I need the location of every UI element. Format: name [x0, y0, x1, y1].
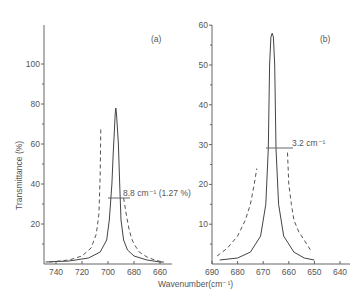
panel-a-label: (a) — [151, 34, 162, 44]
y-tick-label: 40 — [199, 100, 209, 110]
x-tick-label: 680 — [127, 267, 141, 277]
y-axis-label: Transmittance (%) — [14, 141, 24, 210]
panel-b-annotation: 3.2 cm⁻¹ — [292, 138, 326, 148]
x-tick-label: 690 — [205, 267, 219, 277]
x-axis-label: Wavenumber(cm⁻¹) — [158, 279, 233, 289]
x-tick-label: 660 — [153, 267, 167, 277]
x-tick-label: 700 — [101, 267, 115, 277]
x-tick-label: 670 — [256, 267, 270, 277]
panel-a-annotation: 8.8 cm⁻¹ (1.27 %) — [123, 188, 191, 198]
y-tick-label: 100 — [26, 59, 40, 69]
series-dashed — [50, 128, 101, 262]
y-tick-label: 60 — [31, 139, 41, 149]
panel-a-series — [46, 108, 164, 262]
y-tick-label: 50 — [199, 60, 209, 70]
panel-a-x-ticks: 740720700680660 — [49, 261, 167, 277]
figure: 20406080100 740720700680660 (a) 8.8 cm⁻¹… — [0, 0, 364, 301]
y-tick-label: 80 — [31, 99, 41, 109]
x-tick-label: 660 — [282, 267, 296, 277]
series-dashed-right — [288, 153, 312, 253]
panel-b: 102030405060 690680670660650640 (b) 3.2 … — [199, 20, 350, 277]
x-tick-label: 650 — [307, 267, 321, 277]
y-tick-label: 60 — [199, 20, 209, 30]
y-tick-label: 10 — [199, 219, 209, 229]
panel-b-y-ticks: 102030405060 — [199, 20, 212, 244]
panel-a-y-ticks: 20406080100 — [26, 59, 44, 244]
x-tick-label: 740 — [49, 267, 63, 277]
y-tick-label: 40 — [31, 179, 41, 189]
x-tick-label: 720 — [75, 267, 89, 277]
x-tick-label: 640 — [333, 267, 347, 277]
panel-b-label: (b) — [320, 34, 331, 44]
x-tick-label: 680 — [231, 267, 245, 277]
y-tick-label: 20 — [199, 179, 209, 189]
panel-a: 20406080100 740720700680660 (a) 8.8 cm⁻¹… — [14, 25, 191, 277]
series-dashed-left — [217, 169, 257, 257]
y-tick-label: 30 — [199, 140, 209, 150]
panel-b-x-ticks: 690680670660650640 — [205, 261, 347, 277]
series-solid — [46, 108, 164, 262]
y-tick-label: 20 — [31, 219, 41, 229]
